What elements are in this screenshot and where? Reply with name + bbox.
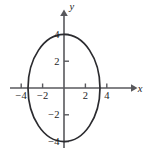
- x-axis-name-label: x: [137, 83, 143, 94]
- x-tick-label-neg4: −4: [16, 90, 28, 101]
- x-axis: [10, 84, 138, 92]
- x-tick-label-pos2: 2: [83, 90, 88, 101]
- graph-figure: −4 −2 2 4 4 2 −2 −4 x y: [0, 0, 148, 152]
- y-tick-label-neg2: −2: [48, 109, 59, 120]
- y-tick-label-pos2: 2: [54, 56, 59, 67]
- x-axis-arrowhead: [131, 84, 138, 92]
- y-tick-label-neg4: −4: [48, 136, 60, 147]
- y-axis-arrowhead: [60, 10, 68, 17]
- y-axis: [60, 10, 68, 149]
- x-tick-label-neg2: −2: [37, 90, 48, 101]
- y-axis-name-label: y: [69, 1, 75, 12]
- y-tick-label-pos4: 4: [54, 29, 60, 40]
- x-tick-label-pos4: 4: [104, 90, 110, 101]
